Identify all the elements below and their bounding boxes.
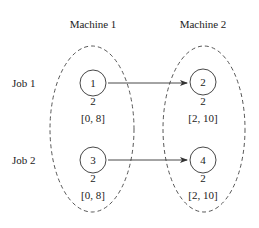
node-id: 3: [90, 154, 96, 166]
job-2-label: Job 2: [12, 154, 36, 166]
node-id: 1: [90, 77, 96, 89]
node-duration: 2: [90, 172, 96, 184]
machine-2-label: Machine 2: [180, 18, 227, 30]
job-1-label: Job 1: [12, 77, 36, 89]
operation-node-4: 4 2 [2, 10]: [188, 147, 217, 201]
operation-node-1: 1 2 [0, 8]: [80, 70, 106, 124]
node-id: 2: [200, 76, 206, 88]
node-time-window: [2, 10]: [188, 189, 217, 201]
node-duration: 2: [200, 95, 206, 107]
node-time-window: [2, 10]: [188, 112, 217, 124]
diagram-canvas: Machine 1 Machine 2 Job 1 Job 2 1 2 [0, …: [0, 0, 259, 228]
node-duration: 2: [200, 172, 206, 184]
node-time-window: [0, 8]: [81, 189, 105, 201]
machine-1-label: Machine 1: [70, 18, 117, 30]
node-duration: 2: [90, 95, 96, 107]
operation-node-2: 2 2 [2, 10]: [188, 69, 217, 124]
node-id: 4: [200, 154, 206, 166]
node-time-window: [0, 8]: [81, 112, 105, 124]
operation-node-3: 3 2 [0, 8]: [80, 147, 106, 201]
